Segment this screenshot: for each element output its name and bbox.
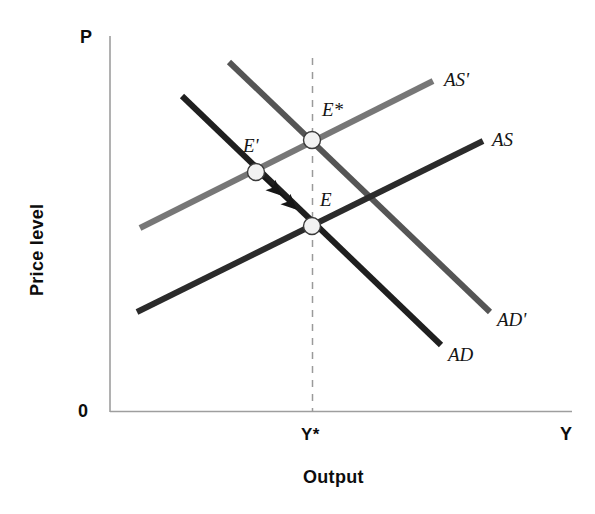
point-label-e: E [320,190,332,209]
equilibrium-marker-e [304,218,321,235]
x-axis-symbol: Y [560,425,572,443]
equilibrium-marker-e-star [304,132,321,149]
adjustment-arrows [262,177,295,208]
curve-label-as-prime: AS' [444,70,469,89]
point-label-e-star: E* [322,100,343,119]
curve-label-as: AS [492,130,513,149]
y-axis-title: Price level [28,204,46,296]
origin-label: 0 [78,402,88,420]
equilibrium-marker-e-prime [248,164,265,181]
y-axis-symbol: P [80,28,92,46]
ad-as-chart-figure: P Price level 0 Y Y* Output AS' AS AD' A… [0,0,595,514]
curve-label-ad-prime: AD' [497,310,526,329]
x-axis-tick-label-y-star: Y* [301,426,320,443]
curve-ad-prime [229,62,490,312]
x-axis-title: Output [303,468,364,486]
chart-canvas [0,0,595,514]
axis-lines [110,36,572,412]
curve-label-ad: AD [448,345,473,364]
point-label-e-prime: E' [243,136,259,155]
curve-as-prime [140,81,433,228]
